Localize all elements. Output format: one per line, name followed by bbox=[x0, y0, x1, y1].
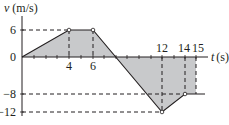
x-tick-14: 14 bbox=[178, 41, 190, 55]
y-tick-minus-12: −12 bbox=[0, 105, 16, 119]
y-tick-6: 6 bbox=[10, 23, 16, 37]
y-axis-label: v(m/s) bbox=[4, 1, 38, 15]
x-tick-6: 6 bbox=[90, 59, 96, 73]
velocity-time-chart: v(m/s) t(s) 6 0 −8 −12 4 6 12 14 15 bbox=[0, 0, 229, 125]
x-tick-15: 15 bbox=[192, 41, 204, 55]
x-tick-12: 12 bbox=[156, 41, 168, 55]
negative-area bbox=[116, 57, 196, 112]
x-tick-4: 4 bbox=[66, 59, 72, 73]
y-tick-minus-8: −8 bbox=[3, 87, 16, 101]
y-tick-0: 0 bbox=[10, 50, 16, 64]
x-axis-label: t(s) bbox=[211, 50, 229, 64]
